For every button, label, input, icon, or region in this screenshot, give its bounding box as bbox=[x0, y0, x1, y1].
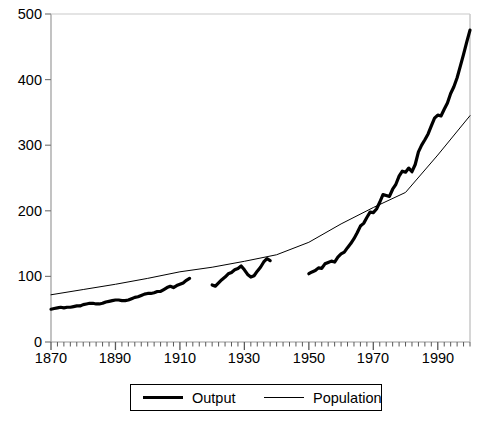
legend-line-swatch-output bbox=[143, 396, 183, 399]
x-tick-label-1890: 1890 bbox=[85, 351, 145, 366]
y-tick-label-100: 100 bbox=[0, 269, 42, 284]
y-axis-ticks bbox=[45, 14, 51, 342]
chart-container: 500 400 300 200 100 0 1870 1890 1910 193… bbox=[0, 0, 484, 430]
x-tick-label-1930: 1930 bbox=[214, 351, 274, 366]
series-line-output-seg1 bbox=[212, 259, 270, 287]
y-tick-label-500: 500 bbox=[0, 7, 42, 22]
legend-label-output: Output bbox=[192, 390, 236, 406]
y-tick-label-0: 0 bbox=[0, 335, 42, 350]
series-line-output-seg2 bbox=[309, 30, 470, 274]
x-tick-label-1870: 1870 bbox=[21, 351, 81, 366]
y-tick-label-300: 300 bbox=[0, 138, 42, 153]
legend-item-output: Output bbox=[143, 385, 236, 410]
x-tick-label-1910: 1910 bbox=[150, 351, 210, 366]
data-series-layer bbox=[51, 30, 470, 309]
x-tick-label-1970: 1970 bbox=[343, 351, 403, 366]
y-tick-label-200: 200 bbox=[0, 204, 42, 219]
chart-legend: Output Population bbox=[130, 384, 382, 411]
x-axis-ticks bbox=[51, 342, 470, 350]
legend-label-population: Population bbox=[313, 390, 382, 406]
legend-line-swatch-population bbox=[264, 397, 304, 398]
legend-item-population: Population bbox=[264, 385, 382, 410]
y-tick-label-400: 400 bbox=[0, 73, 42, 88]
axis-frame bbox=[51, 14, 470, 342]
x-tick-label-1990: 1990 bbox=[408, 351, 468, 366]
x-tick-label-1950: 1950 bbox=[279, 351, 339, 366]
